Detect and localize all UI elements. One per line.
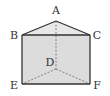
prism-diagram: A B C D E F xyxy=(0,0,110,96)
label-b: B xyxy=(10,29,18,42)
label-a: A xyxy=(51,4,61,17)
label-c: C xyxy=(93,29,101,42)
label-f: F xyxy=(93,79,101,92)
label-e: E xyxy=(10,79,18,92)
front-face-bcfe xyxy=(22,35,90,84)
label-d: D xyxy=(46,56,55,69)
